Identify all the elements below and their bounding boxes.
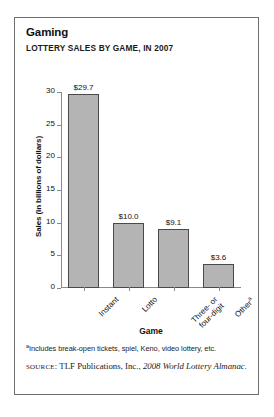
x-category-line: Instant [97,295,120,318]
bar [113,223,144,288]
bar [158,229,189,288]
x-axis-title: Game [61,326,241,336]
x-category-line: Lotto [140,295,159,314]
x-category-label: Instant [97,295,120,318]
y-tick-label: 5 [51,249,55,258]
x-tick-mark [129,287,130,291]
chart-card: Gaming LOTTERY SALES BY GAME, IN 2007 Sa… [14,17,259,395]
y-tick-mark [57,92,61,93]
bar-value-label: $3.6 [195,253,243,262]
y-tick-mark [57,125,61,126]
x-tick-mark [219,287,220,291]
y-tick-mark [57,157,61,158]
bar-value-label: $9.1 [150,218,198,227]
y-axis-title: Sales (in billions of dollars) [34,117,43,257]
x-tick-mark [84,287,85,291]
y-tick-label: 30 [46,86,55,95]
chart-subtitle: LOTTERY SALES BY GAME, IN 2007 [26,43,173,53]
y-tick-mark [57,223,61,224]
y-tick-mark [57,190,61,191]
footnote-text: Includes break-open tickets, spiel, Keno… [29,344,216,353]
y-tick: 20 [61,157,65,158]
y-tick: 0 [61,288,65,289]
y-tick-label: 0 [51,282,55,291]
y-tick: 30 [61,92,65,93]
source-label: SOURCE [26,363,55,371]
y-tick-mark [57,288,61,289]
y-tick-label: 15 [46,184,55,193]
source-publisher: TLF Publications, Inc., [59,361,143,371]
category-footnote-marker: a [245,295,251,301]
source-work: 2008 World Lottery Almanac. [143,361,247,371]
y-tick-mark [57,255,61,256]
y-tick: 10 [61,223,65,224]
x-category-label: Othera [231,295,255,319]
source-line: SOURCE: TLF Publications, Inc., 2008 Wor… [26,361,250,373]
y-tick: 15 [61,190,65,191]
x-tick-mark [174,287,175,291]
x-category-label: Lotto [140,295,159,314]
bar-value-label: $10.0 [105,212,153,221]
y-tick-label: 20 [46,151,55,160]
y-tick: 25 [61,125,65,126]
plot-area: 051015202530$29.7Instant$10.0Lotto$9.1Th… [61,92,241,288]
x-category-line: Othera [232,296,255,319]
page-title: Gaming [26,26,68,38]
page-root: Gaming LOTTERY SALES BY GAME, IN 2007 Sa… [0,0,274,417]
bar-chart: Sales (in billions of dollars) 051015202… [15,74,258,339]
bar-value-label: $29.7 [60,83,108,92]
bar [203,264,234,288]
y-tick-label: 25 [46,119,55,128]
y-tick: 5 [61,255,65,256]
bar [68,94,99,288]
footnote: aIncludes break-open tickets, spiel, Ken… [26,343,250,354]
y-tick-label: 10 [46,217,55,226]
